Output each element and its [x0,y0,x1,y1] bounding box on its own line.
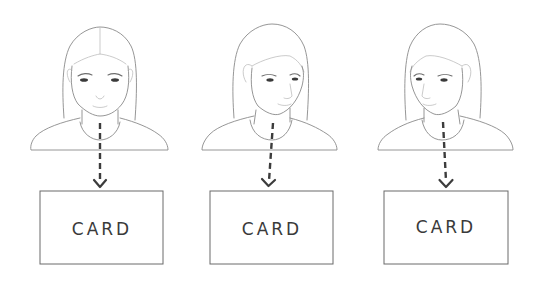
mouth [93,106,107,108]
eye-left [266,78,273,81]
ear-right [462,64,471,82]
brow-right [108,74,122,76]
card-label: CARD [242,219,302,239]
mouth [423,104,436,106]
nose [422,84,430,99]
hairline [74,54,126,64]
hairline [252,56,304,72]
portrait-turned-left [202,24,337,150]
card-label: CARD [72,219,132,239]
brow-right [290,74,300,76]
panel-turned-right: CARD [378,24,513,264]
arrow-head [440,180,453,187]
nose [284,84,292,99]
panel-turned-left: CARD [202,24,337,264]
eye-right [440,78,447,81]
arrow-head [94,180,106,187]
portrait-turned-right [378,24,513,150]
arrow-shaft [269,123,273,181]
mouth [278,104,291,106]
brow-right [438,75,452,77]
eye-left [416,77,422,80]
brow-left [78,74,92,76]
shoulders [378,116,513,150]
eye-right [111,78,119,82]
panel-front: CARD [31,27,168,264]
nose [96,96,104,99]
ear-left [243,64,252,82]
portrait-front [31,27,168,150]
brow-left [414,74,424,76]
shoulders [202,116,337,150]
eye-left [80,78,88,82]
arrow-shaft [443,122,446,181]
diagram-canvas: CARD CARD [0,0,543,286]
neck [254,108,290,124]
card-label: CARD [416,217,476,237]
arrow-head [262,179,275,186]
hairline [410,56,462,72]
neck [424,108,460,124]
eye-right [292,77,298,80]
face-outline [71,66,129,116]
hair-outline [405,24,481,120]
brow-left [262,75,276,77]
hair-outline [233,24,309,120]
